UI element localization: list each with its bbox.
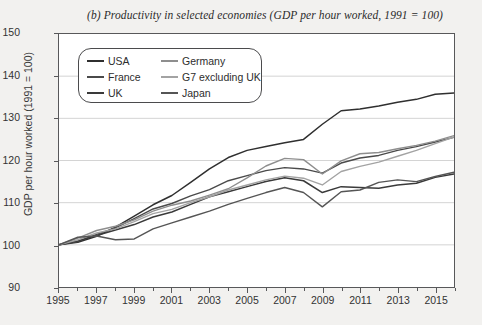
x-tick-mark-minor: [342, 288, 343, 291]
x-tick-mark-major: [58, 288, 59, 293]
x-tick-label: 2007: [265, 295, 305, 306]
x-tick-mark-major: [247, 288, 248, 293]
y-axis-label: GDP per hour worked (1991 = 100): [22, 24, 34, 244]
x-tick-mark-minor: [228, 288, 229, 291]
y-tick-mark: [54, 203, 58, 204]
chart-title: (b) Productivity in selected economies (…: [60, 9, 470, 21]
legend-item: Germany: [161, 56, 265, 67]
y-tick-label: 120: [0, 155, 20, 166]
legend-line-icon: [87, 76, 104, 78]
legend-label: UK: [108, 88, 123, 99]
legend-item: Japan: [161, 88, 265, 99]
x-tick-label: 2011: [340, 295, 380, 306]
y-tick-mark: [54, 76, 58, 77]
legend-label: Germany: [182, 56, 225, 67]
x-tick-label: 1995: [38, 295, 78, 306]
x-tick-mark-major: [209, 288, 210, 293]
x-tick-label: 2005: [227, 295, 267, 306]
legend-label: Japan: [182, 88, 211, 99]
legend-label: G7 excluding UK: [182, 72, 261, 83]
legend-line-icon: [161, 92, 178, 94]
x-tick-label: 2009: [303, 295, 343, 306]
legend-label: USA: [108, 56, 130, 67]
x-tick-mark-major: [323, 288, 324, 293]
y-tick-label: 110: [0, 197, 20, 208]
x-tick-mark-major: [398, 288, 399, 293]
x-tick-mark-major: [285, 288, 286, 293]
legend-label: France: [108, 72, 141, 83]
x-tick-mark-minor: [115, 288, 116, 291]
y-tick-mark: [54, 33, 58, 34]
x-tick-mark-major: [436, 288, 437, 293]
y-tick-mark: [54, 161, 58, 162]
y-tick-label: 130: [0, 112, 20, 123]
legend-item: France: [87, 72, 161, 83]
y-tick-mark: [54, 246, 58, 247]
x-tick-label: 1999: [114, 295, 154, 306]
legend-line-icon: [87, 92, 104, 94]
x-tick-mark-minor: [266, 288, 267, 291]
x-tick-mark-minor: [77, 288, 78, 291]
x-tick-mark-minor: [417, 288, 418, 291]
x-tick-mark-minor: [455, 288, 456, 291]
x-tick-label: 1997: [76, 295, 116, 306]
legend-line-icon: [161, 76, 178, 78]
chart-legend: USAGermanyFranceG7 excluding UKUKJapan: [78, 48, 262, 103]
x-tick-mark-major: [171, 288, 172, 293]
x-tick-mark-minor: [190, 288, 191, 291]
x-tick-mark-major: [96, 288, 97, 293]
x-tick-mark-major: [360, 288, 361, 293]
x-tick-mark-major: [134, 288, 135, 293]
x-tick-mark-minor: [304, 288, 305, 291]
legend-line-icon: [87, 60, 104, 62]
x-tick-label: 2003: [189, 295, 229, 306]
chart-figure: (b) Productivity in selected economies (…: [0, 0, 482, 325]
y-tick-label: 100: [0, 240, 20, 251]
legend-item: G7 excluding UK: [161, 72, 265, 83]
y-tick-label: 150: [0, 27, 20, 38]
legend-item: UK: [87, 88, 161, 99]
x-tick-mark-minor: [379, 288, 380, 291]
x-tick-label: 2015: [416, 295, 456, 306]
y-tick-label: 90: [0, 282, 20, 293]
y-tick-label: 140: [0, 70, 20, 81]
x-tick-label: 2013: [378, 295, 418, 306]
y-tick-mark: [54, 118, 58, 119]
legend-item: USA: [87, 56, 161, 67]
legend-line-icon: [161, 60, 178, 62]
x-tick-label: 2001: [151, 295, 191, 306]
x-tick-mark-minor: [153, 288, 154, 291]
